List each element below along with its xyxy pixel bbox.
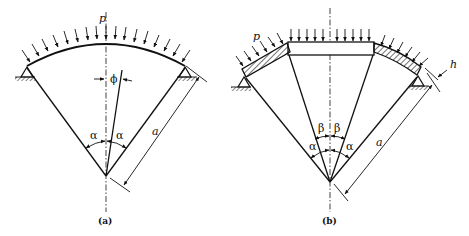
dim-ext-h-b	[425, 68, 438, 80]
load-label-a: p	[99, 12, 106, 25]
dim-radius-b	[345, 85, 432, 194]
beta-right-label-b: β	[334, 122, 340, 135]
radius-inner-left-b	[289, 55, 330, 182]
caption-a: (a)	[98, 216, 112, 226]
diagram-canvas: p	[0, 0, 469, 236]
radius-label-a: a	[152, 125, 159, 138]
beta-left-label-b: β	[318, 122, 324, 135]
radius-left-a	[27, 68, 106, 176]
thickness-label-b: h	[450, 58, 457, 71]
support-left-b	[231, 77, 251, 91]
alpha-right-label-b: α	[346, 140, 354, 153]
panel-b: p β β α α a h	[231, 8, 457, 226]
dim-radius-a	[124, 77, 199, 185]
alpha-left-label-a: α	[90, 129, 98, 142]
radius-label-b: a	[376, 136, 383, 149]
radius-right-b	[330, 77, 417, 182]
central-block-b	[288, 42, 374, 55]
caption-b: (b)	[322, 216, 337, 226]
load-label-b: p	[253, 30, 260, 43]
radius-right-a	[106, 68, 185, 176]
alpha-left-label-b: α	[309, 140, 317, 153]
beta-arc-right-b	[331, 136, 345, 139]
dim-thickness-b	[438, 70, 447, 77]
radius-inner-right-b	[330, 55, 373, 182]
alpha-right-label-a: α	[116, 129, 124, 142]
phi-label-a: ϕ	[110, 73, 118, 86]
beta-arc-left-b	[315, 136, 329, 139]
alpha-arc-left-a	[86, 141, 105, 148]
panel-a: p	[15, 12, 207, 226]
segment-left-b	[242, 43, 290, 77]
